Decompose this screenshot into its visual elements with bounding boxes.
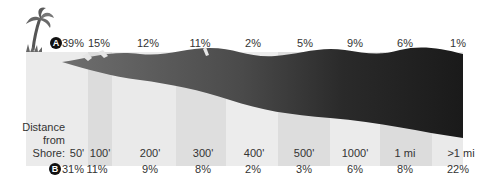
b-value-100ft: 11%	[86, 163, 107, 175]
b-value-1mi: 8%	[397, 163, 413, 175]
a-value-1mi: 6%	[397, 37, 413, 49]
distance-200ft: 200'	[140, 147, 160, 159]
a-value-1000ft: 9%	[347, 37, 363, 49]
b-value-400ft: 2%	[245, 163, 261, 175]
distance-1000ft: 1000'	[342, 147, 369, 159]
series-b-badge: B	[49, 163, 61, 175]
distance-1mi: 1 mi	[395, 147, 416, 159]
b-value-200ft: 9%	[142, 163, 158, 175]
b-value-300ft: 8%	[195, 163, 211, 175]
a-value-over-1mi: 1%	[450, 37, 466, 49]
b-value-500ft: 3%	[296, 163, 312, 175]
distance-500ft: 500'	[294, 147, 314, 159]
a-value-500ft: 5%	[297, 37, 313, 49]
a-value-200ft: 12%	[137, 37, 159, 49]
distance-title-line3: Shore:	[20, 147, 65, 160]
distance-400ft: 400'	[244, 147, 264, 159]
a-value-100ft: 15%	[88, 37, 110, 49]
a-value-400ft: 2%	[245, 37, 261, 49]
series-a-badge: A	[50, 37, 62, 49]
distance-100ft: 100'	[90, 147, 110, 159]
b-value-over-1mi: 22%	[447, 163, 469, 175]
a-value-300ft: 11%	[189, 37, 210, 49]
distance-axis-title: Distance from Shore:	[20, 121, 65, 160]
distance-title-line2: from	[20, 134, 65, 147]
distance-title-line1: Distance	[20, 121, 65, 134]
b-value-50ft: 31%	[62, 163, 84, 175]
a-value-50ft: 39%	[62, 37, 84, 49]
b-value-1000ft: 6%	[347, 163, 363, 175]
distance-over-1mi: >1 mi	[447, 147, 474, 159]
distance-50ft: 50'	[70, 147, 84, 159]
distance-300ft: 300'	[193, 147, 213, 159]
